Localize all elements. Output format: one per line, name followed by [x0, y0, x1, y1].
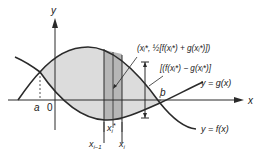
- height-leader: [149, 76, 163, 86]
- shaded-region: [40, 47, 160, 120]
- sample-point-label: xi*: [106, 122, 116, 134]
- y-axis-arrow-icon: [52, 18, 58, 28]
- b-label: b: [160, 87, 166, 98]
- arrow-down-icon: [143, 113, 147, 118]
- x-axis-label: x: [247, 95, 254, 106]
- arrow-up-icon: [143, 62, 147, 67]
- a-label: a: [34, 102, 40, 113]
- f-curve-label: y = f(x): [200, 124, 229, 134]
- area-between-curves-diagram: y x 0 a b y = g(x) y = f(x) (xᵢ*, ½[f(xᵢ…: [0, 0, 260, 157]
- origin-label: 0: [47, 102, 53, 113]
- midpoint-annotation: (xᵢ*, ½[f(xᵢ*) + g(xᵢ*)]): [137, 44, 211, 53]
- g-curve-label: y = g(x): [200, 78, 231, 88]
- x-i-minus-1-label: xi−1: [88, 139, 102, 150]
- x-i-label: xi: [118, 139, 126, 150]
- x-axis-arrow-icon: [234, 97, 244, 103]
- height-annotation: [(f(xᵢ*) − g(xᵢ*)]: [159, 64, 212, 73]
- y-axis-label: y: [50, 5, 57, 16]
